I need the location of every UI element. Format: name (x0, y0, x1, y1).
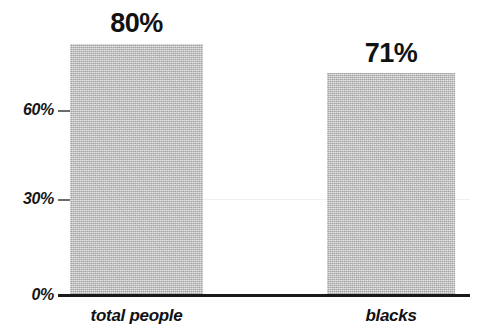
y-axis-tick-label-0: 0% (31, 286, 54, 304)
bar-chart: 80% 71% 60% 30% 0% total people blacks (0, 0, 482, 336)
bar-value-label-total-people: 80% (70, 8, 203, 39)
plot-area: 80% 71% 60% 30% 0% total people blacks (0, 0, 482, 336)
x-axis-line (58, 294, 470, 297)
bar-blacks (327, 73, 455, 295)
y-axis-tick-label-60: 60% (23, 101, 54, 119)
x-axis-category-label-blacks: blacks (327, 306, 455, 326)
y-axis-tick-label-30: 30% (23, 190, 54, 208)
x-axis-category-label-total-people: total people (70, 306, 203, 326)
bar-total-people (70, 44, 203, 295)
bar-value-label-blacks: 71% (327, 38, 455, 69)
